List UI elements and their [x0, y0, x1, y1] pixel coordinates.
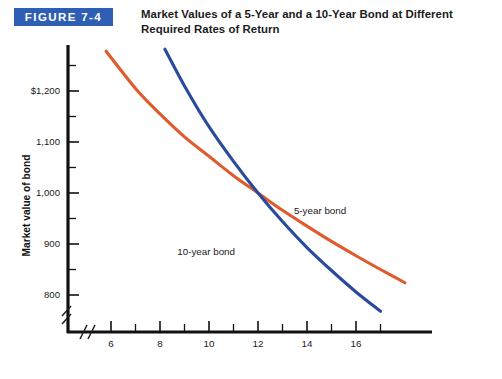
x-axis-tick-label: 6	[100, 338, 122, 349]
series-label-10-year-bond: 10-year bond	[177, 246, 235, 257]
series-line-5-year-bond	[106, 51, 405, 283]
y-axis-tick-label: $1,200	[16, 85, 60, 96]
figure-number-badge: FIGURE 7-4	[14, 8, 113, 26]
chart-canvas	[0, 40, 502, 379]
x-axis-tick-label: 10	[198, 338, 220, 349]
y-axis-tick-label: 800	[16, 289, 60, 300]
y-axis-tick-label: 1,100	[16, 136, 60, 147]
figure-title: Market Values of a 5-Year and a 10-Year …	[141, 7, 493, 36]
x-axis-tick-label: 8	[149, 338, 171, 349]
y-axis-tick-label: 1,000	[16, 187, 60, 198]
figure-root: FIGURE 7-4 Market Values of a 5-Year and…	[0, 0, 502, 379]
series-line-10-year-bond	[165, 49, 381, 311]
y-axis-tick-label: 900	[16, 238, 60, 249]
chart-plot-area: Market value of bond Required rates of r…	[0, 40, 502, 379]
x-axis-tick-label: 16	[345, 338, 367, 349]
series-label-5-year-bond: 5-year bond	[294, 205, 346, 216]
x-axis-tick-label: 12	[247, 338, 269, 349]
x-axis-tick-label: 14	[296, 338, 318, 349]
figure-header: FIGURE 7-4 Market Values of a 5-Year and…	[0, 0, 502, 44]
